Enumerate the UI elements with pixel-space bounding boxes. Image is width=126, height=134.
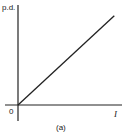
figure-caption: (a) xyxy=(56,124,66,132)
graph-canvas xyxy=(0,0,126,134)
x-axis-label: I xyxy=(114,110,117,119)
origin-label: 0 xyxy=(9,108,13,116)
proportional-line xyxy=(18,16,114,105)
y-axis-label: p.d. xyxy=(2,4,15,12)
